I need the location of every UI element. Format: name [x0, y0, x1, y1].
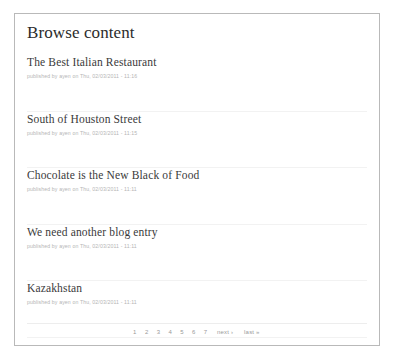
pager-link[interactable]: 6	[192, 329, 196, 335]
pager-link[interactable]: 4	[168, 329, 172, 335]
pager-item-last[interactable]: last »	[244, 328, 260, 337]
node-list: The Best Italian Restaurant published by…	[27, 55, 367, 338]
pager-container: 1 2 3 4 5 6	[27, 323, 367, 337]
pager-link[interactable]: 1	[133, 329, 137, 335]
pager-item-2[interactable]: 2	[145, 328, 149, 337]
list-item[interactable]: South of Houston Street published by aye…	[27, 112, 367, 169]
pager-link[interactable]: 2	[145, 329, 149, 335]
node-title-link[interactable]: We need another blog entry	[27, 225, 367, 239]
pager-last-link[interactable]: last »	[244, 329, 260, 335]
screenshot-root: Browse content The Best Italian Restaura…	[0, 0, 398, 359]
pager-rule	[27, 323, 367, 324]
pager-item-1[interactable]: 1	[133, 328, 137, 337]
pager-link[interactable]: 5	[180, 329, 184, 335]
pager-next-link[interactable]: next ›	[217, 329, 233, 335]
page-title: Browse content	[27, 23, 367, 43]
node-title-link[interactable]: The Best Italian Restaurant	[27, 55, 367, 69]
pager: 1 2 3 4 5 6	[27, 328, 367, 337]
browse-content-panel: Browse content The Best Italian Restaura…	[14, 13, 380, 346]
pager-item-4[interactable]: 4	[168, 328, 172, 337]
node-title-link[interactable]: South of Houston Street	[27, 112, 367, 126]
list-item[interactable]: Chocolate is the New Black of Food publi…	[27, 168, 367, 225]
pager-item-3[interactable]: 3	[157, 328, 161, 337]
node-title-link[interactable]: Chocolate is the New Black of Food	[27, 168, 367, 182]
list-item[interactable]: The Best Italian Restaurant published by…	[27, 55, 367, 112]
node-title-link[interactable]: Kazakhstan	[27, 281, 367, 295]
pager-item-next[interactable]: next ›	[217, 328, 233, 337]
panel-inner: Browse content The Best Italian Restaura…	[15, 14, 379, 345]
pager-item-7[interactable]: 7	[204, 328, 208, 337]
list-item[interactable]: We need another blog entry published by …	[27, 225, 367, 282]
node-submitted-meta: published by ayen on Thu, 02/03/2011 - 1…	[27, 242, 367, 250]
pager-link[interactable]: 3	[157, 329, 161, 335]
pager-link[interactable]: 7	[204, 329, 208, 335]
node-submitted-meta: published by ayen on Thu, 02/03/2011 - 1…	[27, 129, 367, 137]
pager-item-6[interactable]: 6	[192, 328, 196, 337]
node-submitted-meta: published by ayen on Thu, 02/03/2011 - 1…	[27, 185, 367, 193]
node-submitted-meta: published by ayen on Thu, 02/03/2011 - 1…	[27, 72, 367, 80]
pager-item-5[interactable]: 5	[180, 328, 184, 337]
node-submitted-meta: published by ayen on Thu, 02/03/2011 - 1…	[27, 298, 367, 306]
